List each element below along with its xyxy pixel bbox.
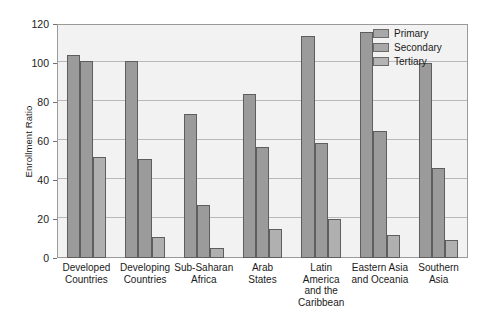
bar [93,157,106,258]
legend-swatch-icon [373,43,389,52]
legend-item: Primary [373,27,465,40]
bar [301,36,314,258]
bar-group [184,24,224,258]
bar [373,131,386,258]
bar [125,61,138,258]
legend-item: Secondary [373,41,465,54]
bar-group [243,24,283,258]
y-axis-tick-label: 40 [5,175,49,185]
bar [210,248,223,258]
y-axis-tick-label: 0 [5,253,49,263]
bar [152,237,165,258]
y-axis-tick-label: 20 [5,214,49,224]
legend-item: Tertiary [373,55,465,68]
bar [387,235,400,258]
x-axis-label-line: Southern [401,262,476,274]
bar [269,229,282,258]
y-axis-tick-label: 80 [5,97,49,107]
x-axis-label-line: Asia [401,274,476,286]
y-axis-tick-label: 100 [5,58,49,68]
bar [419,63,432,258]
enrollment-ratio-bar-chart: Enrollment Ratio 020406080100120 Develop… [0,0,482,323]
chart-legend: PrimarySecondaryTertiary [373,25,465,71]
bar [445,240,458,258]
x-axis-category-label: SouthernAsia [401,262,476,285]
bar [138,159,151,258]
legend-label: Tertiary [394,56,427,67]
bar [432,168,445,258]
y-axis-tick-label: 60 [5,136,49,146]
bar [184,114,197,258]
x-axis-label-line: Caribbean [284,297,359,309]
bar [256,147,269,258]
x-axis-category-labels: DevelopedCountriesDevelopingCountriesSub… [57,262,468,320]
bar [67,55,80,258]
y-axis-tick-label: 120 [5,19,49,29]
bar [315,143,328,258]
bar-group [67,24,107,258]
legend-swatch-icon [373,29,389,38]
bar-group [125,24,165,258]
bar [197,205,210,258]
legend-swatch-icon [373,57,389,66]
x-axis-label-line: and the [284,285,359,297]
y-axis-tick-mark [53,258,57,259]
bar [360,32,373,258]
legend-label: Primary [394,28,428,39]
bar [243,94,256,258]
legend-label: Secondary [394,42,442,53]
bar [328,219,341,258]
bar-group [301,24,341,258]
bar [80,61,93,258]
